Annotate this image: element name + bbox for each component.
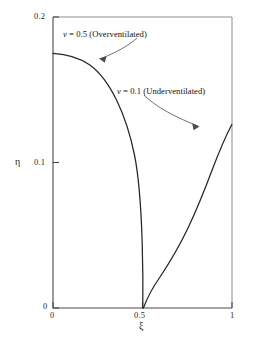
annotation-text-overventilated: = 0.5 (Overventilated) — [67, 29, 147, 39]
ytick-label-0point2: 0.2 — [34, 11, 45, 21]
leader-line-underventilated — [144, 95, 198, 126]
y-axis-title: η — [15, 156, 20, 167]
xtick-label-0: 0 — [50, 310, 54, 320]
x-axis-title: ξ — [139, 320, 143, 331]
ytick-label-0: 0 — [43, 301, 47, 311]
annotation-underventilated: ν = 0.1 (Underventilated) — [117, 86, 205, 96]
figure-container: 0.2 0.1 0 0 0.5 1 η ξ ν = 0.5 (Overventi… — [0, 0, 255, 346]
xtick-label-1: 1 — [230, 310, 234, 320]
annotation-overventilated: ν = 0.5 (Overventilated) — [63, 29, 147, 39]
arrowhead-overventilated — [99, 56, 107, 63]
ytick-label-0point1: 0.1 — [34, 157, 45, 167]
xtick-label-0point5: 0.5 — [134, 310, 145, 320]
arrowhead-underventilated — [192, 123, 199, 130]
leader-line-overventilated — [100, 38, 137, 59]
curve-nu-0point1 — [143, 125, 231, 309]
annotation-text-underventilated: = 0.1 (Underventilated) — [121, 86, 205, 96]
plot-svg — [0, 0, 255, 346]
